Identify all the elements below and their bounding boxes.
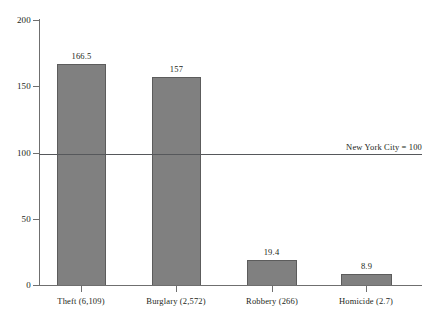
y-tick-label-0: 0	[1, 281, 31, 290]
y-tick-label-50: 50	[1, 215, 31, 224]
x-tick-mark-robbery	[272, 286, 273, 292]
y-tick-label-100: 100	[1, 149, 31, 158]
bar-theft	[57, 64, 106, 286]
x-tick-mark-burglary	[176, 286, 177, 292]
x-axis-line	[39, 285, 422, 286]
reference-line-label: New York City = 100	[346, 142, 422, 152]
y-axis-line	[39, 19, 40, 286]
category-label-homicide: Homicide (2.7)	[311, 296, 421, 306]
y-tick-label-200: 200	[1, 16, 31, 25]
y-tick-label-150: 150	[1, 82, 31, 91]
category-label-burglary: Burglary (2,572)	[121, 296, 231, 306]
y-tick-mark-50	[33, 219, 39, 220]
category-label-theft: Theft (6,109)	[26, 296, 136, 306]
bar-value-homicide: 8.9	[331, 262, 402, 271]
x-tick-mark-homicide	[366, 286, 367, 292]
bar-robbery	[247, 260, 297, 286]
x-tick-mark-theft	[81, 286, 82, 292]
bar-chart: 200 150 100 50 0 166.5 157 19.4 8.9 Thef…	[0, 0, 427, 324]
bar-value-burglary: 157	[141, 65, 212, 74]
bar-value-robbery: 19.4	[236, 248, 307, 257]
bar-burglary	[152, 77, 201, 286]
reference-line-nyc	[39, 154, 422, 155]
bar-value-theft: 166.5	[46, 52, 117, 61]
y-tick-mark-200	[33, 20, 39, 21]
y-tick-mark-150	[33, 86, 39, 87]
